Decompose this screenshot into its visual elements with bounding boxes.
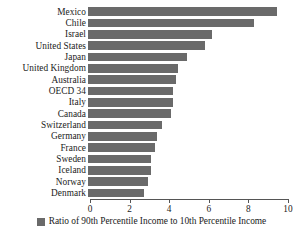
bar-row: United Kingdom — [0, 63, 303, 74]
bar — [88, 121, 162, 130]
x-axis-tick — [248, 199, 249, 203]
category-label: Germany — [0, 131, 88, 141]
bar-track — [88, 51, 303, 62]
category-label: Mexico — [0, 7, 88, 17]
category-label: Israel — [0, 29, 88, 39]
bar-row: Canada — [0, 108, 303, 119]
bar — [88, 166, 151, 175]
bar-row: Denmark — [0, 188, 303, 199]
bar-track — [88, 40, 303, 51]
plot-area: MexicoChileIsraelUnited StatesJapanUnite… — [0, 0, 303, 212]
bar-row: United States — [0, 40, 303, 51]
bar — [88, 41, 205, 50]
bar — [88, 19, 254, 28]
bar — [88, 98, 173, 107]
x-axis-tick — [288, 199, 289, 203]
bar — [88, 132, 157, 141]
category-label: Italy — [0, 97, 88, 107]
bar-track — [88, 176, 303, 187]
bar — [88, 177, 148, 186]
bar-row: France — [0, 142, 303, 153]
bar-row: Australia — [0, 74, 303, 85]
x-axis-tick-label: 8 — [246, 204, 251, 214]
category-label: Switzerland — [0, 120, 88, 130]
x-axis-tick — [209, 199, 210, 203]
bar-row: Norway — [0, 176, 303, 187]
bar-row: Germany — [0, 131, 303, 142]
bar-row: Iceland — [0, 165, 303, 176]
x-axis-tick-label: 10 — [283, 204, 292, 214]
bar-track — [88, 63, 303, 74]
x-axis-tick — [130, 199, 131, 203]
bar-chart: MexicoChileIsraelUnited StatesJapanUnite… — [0, 0, 303, 237]
category-label: United States — [0, 41, 88, 51]
bar — [88, 53, 187, 62]
bar — [88, 189, 144, 198]
bar — [88, 75, 176, 84]
category-label: Denmark — [0, 188, 88, 198]
x-axis-tick — [90, 199, 91, 203]
bar-track — [88, 6, 303, 17]
bar-row: Israel — [0, 29, 303, 40]
x-axis: 0246810 — [90, 199, 288, 200]
category-label: Sweden — [0, 154, 88, 164]
x-axis-tick-label: 2 — [127, 204, 132, 214]
bar-track — [88, 188, 303, 199]
bar-rows: MexicoChileIsraelUnited StatesJapanUnite… — [0, 6, 303, 199]
category-label: Iceland — [0, 165, 88, 175]
bar-track — [88, 74, 303, 85]
bar — [88, 87, 173, 96]
x-axis-tick — [169, 199, 170, 203]
category-label: Chile — [0, 18, 88, 28]
bar — [88, 7, 277, 16]
bar — [88, 155, 151, 164]
bar-track — [88, 17, 303, 28]
category-label: OECD 34 — [0, 86, 88, 96]
bar-row: OECD 34 — [0, 85, 303, 96]
bar — [88, 109, 171, 118]
bar-row: Chile — [0, 17, 303, 28]
bar-row: Mexico — [0, 6, 303, 17]
legend-label: Ratio of 90th Percentile Income to 10th … — [49, 216, 267, 227]
category-label: Australia — [0, 75, 88, 85]
category-label: Canada — [0, 109, 88, 119]
bar-track — [88, 119, 303, 130]
category-label: United Kingdom — [0, 63, 88, 73]
category-label: Norway — [0, 177, 88, 187]
x-axis-tick-label: 6 — [206, 204, 211, 214]
category-label: Japan — [0, 52, 88, 62]
bar — [88, 30, 212, 39]
bar — [88, 143, 155, 152]
bar-track — [88, 85, 303, 96]
bar-track — [88, 142, 303, 153]
category-label: France — [0, 143, 88, 153]
bar-row: Sweden — [0, 153, 303, 164]
legend-swatch-icon — [37, 218, 45, 226]
bar-track — [88, 131, 303, 142]
bar-track — [88, 29, 303, 40]
bar-track — [88, 97, 303, 108]
chart-legend: Ratio of 90th Percentile Income to 10th … — [0, 216, 303, 227]
bar-track — [88, 108, 303, 119]
bar-track — [88, 165, 303, 176]
bar-row: Japan — [0, 51, 303, 62]
x-axis-tick-label: 4 — [167, 204, 172, 214]
bar-row: Switzerland — [0, 119, 303, 130]
bar — [88, 64, 178, 73]
bar-track — [88, 153, 303, 164]
bar-row: Italy — [0, 97, 303, 108]
x-axis-tick-label: 0 — [88, 204, 93, 214]
